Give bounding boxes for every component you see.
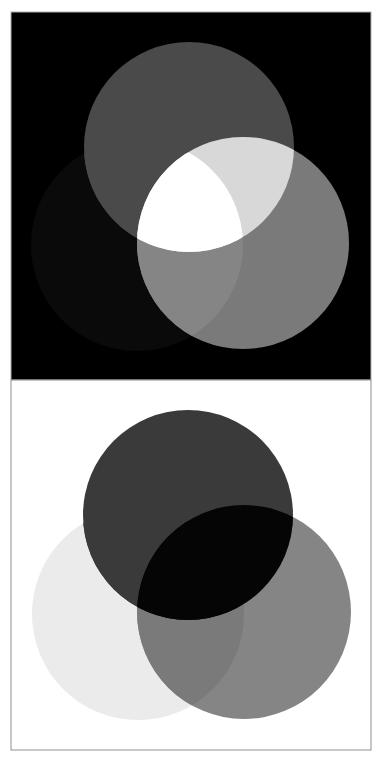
color-mixing-diagram [0,0,384,768]
subtractive-panel [11,380,371,750]
diagram-svg [0,0,384,768]
additive-panel [11,12,371,380]
